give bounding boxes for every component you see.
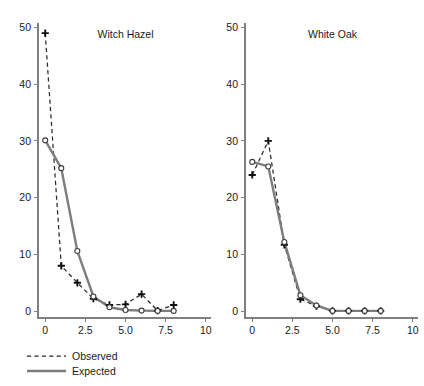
series-markers-expected bbox=[250, 159, 383, 313]
data-point-circle bbox=[59, 166, 64, 171]
data-point-circle bbox=[282, 239, 287, 244]
panel-title: White Oak bbox=[308, 28, 358, 40]
data-point-plus bbox=[265, 137, 272, 144]
x-tick-label: 10 bbox=[407, 324, 419, 336]
figure-container: 0102030405002.55.07.510Witch Hazel010203… bbox=[0, 0, 424, 386]
x-tick-label: 0 bbox=[42, 324, 48, 336]
series-markers-expected bbox=[43, 138, 176, 314]
data-point-plus bbox=[42, 29, 49, 36]
data-point-circle bbox=[91, 294, 96, 299]
x-tick-label: 5.0 bbox=[118, 324, 133, 336]
series-line-observed bbox=[252, 141, 380, 311]
y-tick-label: 0 bbox=[232, 305, 238, 317]
x-tick-label: 7.5 bbox=[365, 324, 380, 336]
data-point-circle bbox=[266, 164, 271, 169]
data-point-circle bbox=[378, 308, 383, 313]
axis-spines bbox=[245, 23, 418, 318]
data-point-circle bbox=[43, 138, 48, 143]
data-point-circle bbox=[298, 293, 303, 298]
data-point-circle bbox=[139, 308, 144, 313]
x-tick-label: 5.0 bbox=[325, 324, 340, 336]
y-tick-label: 40 bbox=[226, 78, 238, 90]
x-tick-label: 2.5 bbox=[285, 324, 300, 336]
y-tick-label: 30 bbox=[226, 135, 238, 147]
data-point-circle bbox=[346, 308, 351, 313]
x-tick-label: 0 bbox=[249, 324, 255, 336]
data-point-circle bbox=[314, 303, 319, 308]
data-point-plus bbox=[249, 171, 256, 178]
data-point-plus bbox=[170, 301, 177, 308]
y-tick-label: 20 bbox=[19, 191, 31, 203]
legend-expected-label: Expected bbox=[72, 365, 116, 377]
x-tick-label: 10 bbox=[200, 324, 212, 336]
legend: ObservedExpected bbox=[27, 350, 118, 377]
data-point-circle bbox=[107, 305, 112, 310]
series-line-expected bbox=[45, 140, 173, 311]
y-tick-label: 50 bbox=[19, 21, 31, 33]
x-tick-label: 7.5 bbox=[158, 324, 173, 336]
series-line-observed bbox=[45, 33, 173, 311]
x-tick-label: 2.5 bbox=[78, 324, 93, 336]
y-tick-label: 10 bbox=[226, 248, 238, 260]
y-tick-label: 0 bbox=[25, 305, 31, 317]
data-point-circle bbox=[171, 308, 176, 313]
panel-white-oak: 0102030405002.55.07.510White Oak bbox=[226, 21, 418, 336]
data-point-plus bbox=[122, 301, 129, 308]
axis-spines bbox=[38, 23, 211, 318]
data-point-circle bbox=[250, 159, 255, 164]
legend-observed: Observed bbox=[27, 350, 118, 362]
two-panel-line-chart: 0102030405002.55.07.510Witch Hazel010203… bbox=[0, 0, 424, 386]
legend-observed-label: Observed bbox=[72, 350, 118, 362]
legend-expected: Expected bbox=[27, 365, 116, 377]
data-point-circle bbox=[330, 308, 335, 313]
y-tick-label: 30 bbox=[19, 135, 31, 147]
y-tick-label: 20 bbox=[226, 191, 238, 203]
y-tick-label: 50 bbox=[226, 21, 238, 33]
y-tick-label: 10 bbox=[19, 248, 31, 260]
panel-title: Witch Hazel bbox=[97, 28, 153, 40]
series-line-expected bbox=[252, 162, 380, 311]
data-point-circle bbox=[75, 249, 80, 254]
data-point-circle bbox=[155, 308, 160, 313]
data-point-circle bbox=[123, 308, 128, 313]
y-tick-label: 40 bbox=[19, 78, 31, 90]
panel-witch-hazel: 0102030405002.55.07.510Witch Hazel bbox=[19, 21, 211, 336]
data-point-circle bbox=[362, 308, 367, 313]
